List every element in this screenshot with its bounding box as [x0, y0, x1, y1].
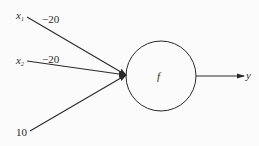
- neuron-node: [126, 41, 196, 111]
- weight-label-x1: −20: [42, 14, 59, 25]
- edge-x1: [27, 17, 126, 75]
- neuron-diagram: x1 −20 x2 −20 10 f y: [0, 0, 259, 146]
- bias-input-label: 10: [16, 127, 27, 138]
- output-label: y: [246, 70, 251, 81]
- diagram-edges: [0, 0, 259, 146]
- input-x2-subscript: 2: [21, 61, 24, 67]
- edge-bias: [30, 75, 126, 131]
- weight-label-x2: −20: [42, 54, 59, 65]
- node-function-label: f: [157, 71, 160, 82]
- input-x1-subscript: 1: [21, 16, 24, 22]
- input-label-x2: x2: [16, 55, 24, 67]
- input-label-x1: x1: [16, 10, 24, 22]
